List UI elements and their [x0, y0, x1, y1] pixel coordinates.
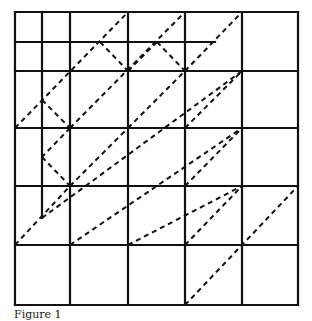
dashed-segment	[42, 100, 70, 128]
grid-lines	[15, 12, 298, 305]
dashed-diagonals	[15, 12, 298, 305]
figure-caption: Figure 1	[14, 309, 62, 320]
dashed-segment	[185, 128, 242, 186]
dashed-segment	[70, 128, 128, 186]
dashed-segment	[128, 42, 157, 71]
dashed-segment	[185, 186, 242, 245]
dashed-segment	[185, 71, 242, 128]
dashed-segment	[42, 71, 242, 218]
dashed-segment	[42, 128, 70, 157]
dashed-segment	[100, 42, 128, 71]
dashed-segment	[42, 157, 70, 186]
dashed-segment	[157, 42, 185, 71]
